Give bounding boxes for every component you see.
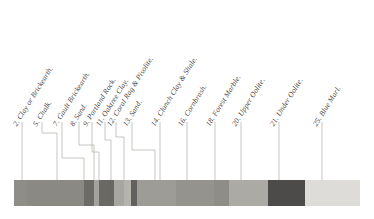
strata-band-gault-brickearth: [84, 180, 94, 206]
strata-band-coral-rag-pisolite: [114, 180, 124, 206]
strata-label-clunch-clay-shale: 14. Clunch Clay & Shale.: [150, 55, 199, 127]
leader-line-oaktree-clay: [105, 122, 111, 180]
strata-band-chalk: [27, 180, 84, 206]
strata-color-bar: [14, 180, 360, 206]
leader-line-coral-rag-pisolite: [116, 122, 124, 180]
strata-label-chalk: 5. Chalk.: [32, 99, 54, 127]
leader-line-portland-rock: [92, 122, 99, 180]
strata-label-under-oolite: 21. Under Oolite.: [269, 77, 305, 128]
leader-line-sand: [132, 122, 155, 180]
strata-band-forest-marble: [176, 180, 214, 206]
strata-band-upper-oolite: [214, 180, 229, 206]
strata-band-terminal-light: [305, 180, 360, 206]
strata-band-portland-rock: [99, 180, 107, 206]
strata-band-cornbrash: [137, 180, 176, 206]
plate-area: 2. Clay or Brickearth.5. Chalk.7. Gault …: [0, 0, 374, 219]
leader-line-gault-brickearth: [62, 122, 84, 180]
strata-band-under-oolite: [229, 180, 268, 206]
leader-line-sand: [79, 122, 94, 180]
stratigraphic-diagram: 2. Clay or Brickearth.5. Chalk.7. Gault …: [0, 0, 374, 219]
strata-band-blue-marl: [268, 180, 305, 206]
strata-band-clay-or-brickearth: [14, 180, 27, 206]
leader-line-chalk: [42, 122, 57, 180]
strata-band-sand-13: [124, 180, 131, 206]
strata-label-blue-marl: 25. Blue Marl.: [312, 85, 343, 128]
strata-band-oaktree-clay: [107, 180, 114, 206]
